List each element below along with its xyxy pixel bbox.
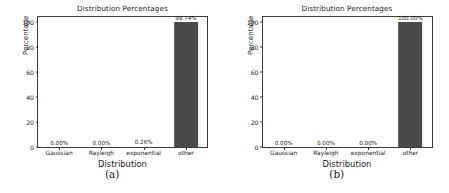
subfigure-caption-a: (a) — [0, 168, 225, 180]
x-tick-mark-b-3 — [410, 147, 411, 150]
y-tick-mark-a-4 — [36, 47, 39, 48]
y-tick-mark-b-3 — [260, 72, 263, 73]
panel-b: Distribution Percentages Percentage 0204… — [225, 0, 449, 193]
x-tick-mark-a-3 — [186, 147, 187, 150]
bar-value-label-b-exponential: 0.00% — [359, 140, 377, 146]
chart-title-b: Distribution Percentages — [262, 4, 433, 13]
bar-value-label-b-gaussian: 0.00% — [275, 140, 293, 146]
x-tick-label-a-exponential: exponential — [126, 150, 161, 156]
y-tick-mark-a-3 — [36, 72, 39, 73]
x-tick-mark-b-0 — [284, 147, 285, 150]
x-tick-label-a-rayleigh: Rayleigh — [89, 150, 114, 156]
subfigure-caption-b: (b) — [225, 168, 449, 180]
x-tick-mark-b-1 — [326, 147, 327, 150]
plot-area-a: Percentage 0204060801000.00%Gaussian0.00… — [37, 16, 208, 148]
x-tick-mark-b-2 — [368, 147, 369, 150]
bar-b-other — [399, 22, 423, 147]
y-tick-mark-a-1 — [36, 122, 39, 123]
plot-area-b: Percentage 0204060801000.00%Gaussian0.00… — [262, 16, 433, 148]
bar-value-label-b-other: 100.00% — [398, 15, 423, 21]
y-tick-mark-a-0 — [36, 147, 39, 148]
y-tick-mark-a-2 — [36, 97, 39, 98]
y-tick-mark-b-4 — [260, 47, 263, 48]
bar-a-other — [174, 22, 198, 147]
x-tick-label-b-gaussian: Gaussian — [270, 150, 297, 156]
bar-value-label-b-rayleigh: 0.00% — [317, 140, 335, 146]
x-tick-label-a-other: other — [178, 150, 194, 156]
x-tick-label-b-other: other — [403, 150, 419, 156]
bar-value-label-a-other: 99.74% — [175, 15, 196, 21]
bar-value-label-a-rayleigh: 0.00% — [92, 140, 110, 146]
chart-title-a: Distribution Percentages — [37, 4, 208, 13]
panel-a: Distribution Percentages Percentage 0204… — [0, 0, 225, 193]
x-tick-mark-a-0 — [59, 147, 60, 150]
x-tick-label-b-exponential: exponential — [351, 150, 386, 156]
figure-two-panel-bar-charts: Distribution Percentages Percentage 0204… — [0, 0, 449, 193]
y-tick-mark-b-0 — [260, 147, 263, 148]
y-tick-mark-a-5 — [36, 22, 39, 23]
y-tick-mark-b-2 — [260, 97, 263, 98]
x-tick-label-a-gaussian: Gaussian — [46, 150, 73, 156]
bar-value-label-a-exponential: 0.26% — [135, 139, 153, 145]
y-tick-mark-b-5 — [260, 22, 263, 23]
x-tick-mark-a-1 — [101, 147, 102, 150]
x-tick-mark-a-2 — [144, 147, 145, 150]
x-tick-label-b-rayleigh: Rayleigh — [313, 150, 338, 156]
y-tick-mark-b-1 — [260, 122, 263, 123]
bar-value-label-a-gaussian: 0.00% — [50, 140, 68, 146]
